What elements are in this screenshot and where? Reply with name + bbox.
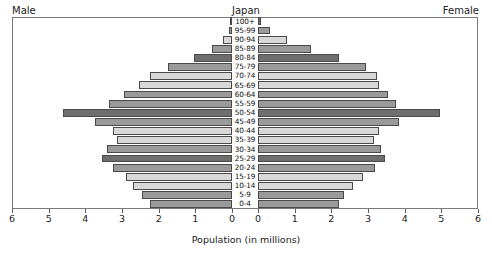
age-group-label: 50-54 — [235, 109, 256, 117]
bar-female-25-29 — [258, 155, 385, 163]
bar-row — [12, 108, 232, 117]
age-group-row: 65-69 — [232, 81, 258, 90]
bar-row — [258, 108, 478, 117]
bar-row — [12, 99, 232, 108]
bar-row — [258, 54, 478, 63]
bar-row — [258, 136, 478, 145]
bar-male-75-79 — [168, 63, 232, 71]
bar-row — [12, 72, 232, 81]
bar-male-10-14 — [133, 182, 232, 190]
bar-row — [12, 17, 232, 26]
bar-male-35-39 — [117, 136, 233, 144]
bar-female-85-89 — [258, 45, 311, 53]
bar-row — [258, 81, 478, 90]
age-group-label: 80-84 — [235, 54, 256, 62]
axis-tick-label: 5 — [46, 214, 52, 224]
bar-female-15-19 — [258, 173, 363, 181]
axis-tick-label: 2 — [156, 214, 162, 224]
bar-row — [258, 172, 478, 181]
bar-row — [258, 154, 478, 163]
age-group-row: 100+ — [232, 17, 258, 26]
chart-title: Japan — [232, 5, 260, 16]
age-group-row: 35-39 — [232, 136, 258, 145]
axis-tick-label: 2 — [328, 214, 334, 224]
bar-row — [12, 26, 232, 35]
axis-tick-label: 1 — [192, 214, 198, 224]
bar-male-0-4 — [150, 200, 233, 208]
bar-male-70-74 — [150, 72, 233, 80]
axis-tick-label: 6 — [475, 214, 481, 224]
age-group-label: 30-34 — [235, 146, 256, 154]
age-group-row: 70-74 — [232, 72, 258, 81]
age-group-row: 0-4 — [232, 200, 258, 209]
bar-female-95-99 — [258, 27, 270, 35]
age-group-label: 100+ — [235, 18, 255, 26]
axis-tick-label: 3 — [119, 214, 125, 224]
age-group-label: 10-14 — [235, 182, 256, 190]
age-group-label: 35-39 — [235, 136, 256, 144]
bar-row — [12, 63, 232, 72]
female-x-axis: 0123456 — [258, 209, 478, 233]
bar-row — [12, 54, 232, 63]
age-group-label: 15-19 — [235, 173, 256, 181]
bar-female-60-64 — [258, 91, 388, 99]
bar-row — [258, 127, 478, 136]
age-group-label: 65-69 — [235, 82, 256, 90]
bar-female-45-49 — [258, 118, 399, 126]
bar-female-30-34 — [258, 145, 381, 153]
bar-male-5-9 — [142, 191, 232, 199]
axis-tick-label: 0 — [229, 214, 235, 224]
bar-female-90-94 — [258, 36, 287, 44]
axis-tick-label: 5 — [438, 214, 444, 224]
age-group-row: 25-29 — [232, 154, 258, 163]
x-axis-caption: Population (in millions) — [0, 234, 492, 245]
bar-row — [12, 172, 232, 181]
bar-female-10-14 — [258, 182, 353, 190]
bar-row — [258, 72, 478, 81]
bar-row — [12, 191, 232, 200]
female-panel-label: Female — [443, 5, 479, 16]
bar-row — [12, 127, 232, 136]
bar-row — [258, 145, 478, 154]
age-group-label: 95-99 — [235, 27, 256, 35]
bar-male-80-84 — [194, 54, 233, 62]
age-group-label: 5-9 — [239, 191, 251, 199]
bar-male-15-19 — [126, 173, 232, 181]
bar-male-55-59 — [109, 100, 232, 108]
bar-row — [12, 200, 232, 209]
age-group-row: 30-34 — [232, 145, 258, 154]
bar-male-45-49 — [95, 118, 233, 126]
bar-row — [12, 90, 232, 99]
axis-tick-label: 0 — [255, 214, 261, 224]
bar-female-65-69 — [258, 81, 379, 89]
bar-male-90-94 — [223, 36, 232, 44]
axis-tick-label: 6 — [9, 214, 15, 224]
male-panel-label: Male — [12, 5, 36, 16]
bar-row — [12, 35, 232, 44]
bar-row — [12, 136, 232, 145]
bar-female-55-59 — [258, 100, 396, 108]
bar-female-75-79 — [258, 63, 366, 71]
bar-male-30-34 — [107, 145, 232, 153]
age-group-label: 0-4 — [239, 200, 251, 208]
age-group-label: 75-79 — [235, 63, 256, 71]
bar-male-20-24 — [113, 164, 232, 172]
bar-female-40-44 — [258, 127, 379, 135]
population-pyramid-chart: Male Japan Female 100+95-9990-9485-8980-… — [0, 0, 492, 256]
bar-row — [12, 44, 232, 53]
bar-male-85-89 — [212, 45, 232, 53]
bar-row — [12, 118, 232, 127]
age-group-label: 55-59 — [235, 100, 256, 108]
bar-male-40-44 — [113, 127, 232, 135]
age-group-label: 40-44 — [235, 127, 256, 135]
axis-tick-label: 4 — [402, 214, 408, 224]
age-group-label: 90-94 — [235, 36, 256, 44]
bar-row — [258, 26, 478, 35]
age-group-label-column: 100+95-9990-9485-8980-8475-7970-7465-696… — [232, 17, 258, 209]
bar-female-50-54 — [258, 109, 440, 117]
axis-tick-label: 1 — [292, 214, 298, 224]
bar-row — [258, 90, 478, 99]
bar-row — [258, 182, 478, 191]
age-group-label: 45-49 — [235, 118, 256, 126]
axis-tick-label: 4 — [82, 214, 88, 224]
